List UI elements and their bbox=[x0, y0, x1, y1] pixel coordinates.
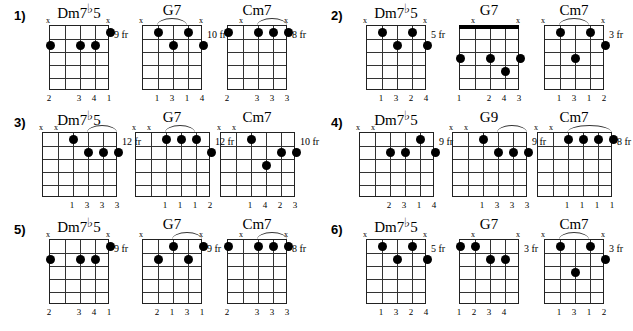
finger-number: 1 bbox=[378, 308, 384, 317]
finger-dot bbox=[509, 148, 518, 157]
finger-number: 1 bbox=[456, 308, 462, 317]
chord-name-extension: 5 bbox=[410, 219, 418, 235]
finger-number: 2 bbox=[486, 94, 492, 103]
chord-name: G9 bbox=[450, 109, 528, 125]
finger-dot bbox=[408, 242, 417, 251]
fret-line bbox=[460, 253, 518, 254]
finger-number: 4 bbox=[431, 201, 437, 210]
string-line bbox=[397, 26, 398, 89]
muted-string-x-icon: x bbox=[549, 124, 553, 132]
muted-string-x-icon: x bbox=[541, 231, 545, 239]
finger-number: 3 bbox=[401, 201, 407, 210]
chord-name-root: Cm7 bbox=[559, 2, 588, 18]
chord-name-root: G7 bbox=[480, 2, 498, 18]
finger-dot bbox=[494, 148, 503, 157]
barre-arc bbox=[559, 232, 589, 240]
finger-number: 3 bbox=[571, 94, 577, 103]
muted-string-x-icon: x bbox=[601, 17, 605, 25]
fret-line bbox=[367, 279, 425, 280]
finger-number: 1 bbox=[586, 94, 592, 103]
finger-number: 1 bbox=[556, 94, 562, 103]
fret-position-label: 5 fr bbox=[431, 30, 445, 40]
finger-number: 1 bbox=[586, 308, 592, 317]
finger-dot bbox=[456, 54, 465, 63]
chord-diagram: Dm7♭5xx5 fr1324 bbox=[357, 2, 452, 105]
chord-name-root: Dm7 bbox=[374, 112, 404, 128]
muted-string-x-icon: x bbox=[516, 231, 520, 239]
string-line bbox=[505, 26, 506, 89]
fret-position-label: 3 fr bbox=[609, 30, 623, 40]
fret-line bbox=[545, 52, 603, 53]
fret-line bbox=[453, 146, 526, 147]
chord-diagram: Cm7xx8 fr1111 bbox=[535, 109, 630, 212]
fretboard-grid bbox=[537, 132, 612, 197]
finger-number: 4 bbox=[501, 94, 507, 103]
finger-dot bbox=[416, 135, 425, 144]
string-line bbox=[475, 26, 476, 89]
muted-string-x-icon: x bbox=[464, 124, 468, 132]
barre-arc bbox=[567, 125, 612, 133]
muted-string-x-icon: x bbox=[534, 124, 538, 132]
fret-line bbox=[460, 52, 518, 53]
chord-diagram: G7xx1243 bbox=[450, 2, 545, 105]
finger-dot bbox=[386, 148, 395, 157]
fretboard-grid bbox=[544, 25, 604, 90]
chord-diagram: Cm7xx3 fr1312 bbox=[535, 216, 630, 319]
fretboard-grid bbox=[452, 132, 527, 197]
finger-dot bbox=[524, 148, 533, 157]
finger-number: 1 bbox=[564, 201, 570, 210]
barre-arc bbox=[559, 18, 589, 26]
muted-string-x-icon: x bbox=[423, 17, 427, 25]
chord-name-extension: 5 bbox=[410, 112, 418, 128]
finger-number: 2 bbox=[471, 308, 477, 317]
string-line bbox=[390, 133, 391, 196]
chord-chart-sheet: 1)Dm7♭5xx9 fr2341G7xx10 fr1314Cm7xx8 fr2… bbox=[0, 0, 633, 331]
muted-string-x-icon: x bbox=[371, 124, 375, 132]
fret-line bbox=[460, 65, 518, 66]
finger-number: 1 bbox=[609, 201, 615, 210]
string-line bbox=[490, 240, 491, 303]
barre-arc bbox=[497, 125, 527, 133]
chord-name-root: Dm7 bbox=[374, 219, 404, 235]
fret-position-label: 8 fr bbox=[617, 137, 631, 147]
string-line bbox=[513, 133, 514, 196]
muted-string-x-icon: x bbox=[363, 231, 367, 239]
fret-line bbox=[460, 78, 518, 79]
fret-line bbox=[367, 78, 425, 79]
string-line bbox=[505, 240, 506, 303]
muted-string-x-icon: x bbox=[471, 17, 475, 25]
fret-position-label: 5 fr bbox=[431, 244, 445, 254]
finger-dot bbox=[556, 28, 565, 37]
finger-number: 3 bbox=[516, 94, 522, 103]
finger-number: 2 bbox=[408, 308, 414, 317]
chord-name-extension: 5 bbox=[410, 5, 418, 21]
chord-group: 6)Dm7♭5xx5 fr1324G7xx3 fr1234Cm7xx3 fr13… bbox=[317, 216, 633, 319]
chord-row: 4)Dm7♭5xx9 fr2314G9xx9 fr1333Cm7xx8 fr11… bbox=[0, 109, 633, 212]
nut-bar bbox=[459, 25, 519, 29]
fretboard-grid bbox=[366, 239, 426, 304]
fretboard-grid bbox=[544, 239, 604, 304]
finger-number: 1 bbox=[456, 94, 462, 103]
finger-number: 2 bbox=[408, 94, 414, 103]
chord-diagram: Dm7♭5xx5 fr1324 bbox=[357, 216, 452, 319]
fret-line bbox=[538, 172, 611, 173]
fretboard-grid bbox=[459, 25, 519, 90]
finger-number: 1 bbox=[594, 201, 600, 210]
fret-line bbox=[360, 185, 433, 186]
finger-dot bbox=[378, 242, 387, 251]
string-line bbox=[397, 240, 398, 303]
fret-line bbox=[453, 172, 526, 173]
chord-name-root: Cm7 bbox=[559, 216, 588, 232]
muted-string-x-icon: x bbox=[541, 17, 545, 25]
row-number: 2) bbox=[331, 8, 343, 23]
string-line bbox=[405, 133, 406, 196]
fret-line bbox=[545, 279, 603, 280]
fret-position-label: 3 fr bbox=[609, 244, 623, 254]
fret-line bbox=[538, 185, 611, 186]
finger-dot bbox=[516, 54, 525, 63]
finger-number: 4 bbox=[501, 308, 507, 317]
finger-dot bbox=[564, 135, 573, 144]
fret-line bbox=[367, 253, 425, 254]
finger-number: 1 bbox=[416, 201, 422, 210]
fret-line bbox=[545, 78, 603, 79]
